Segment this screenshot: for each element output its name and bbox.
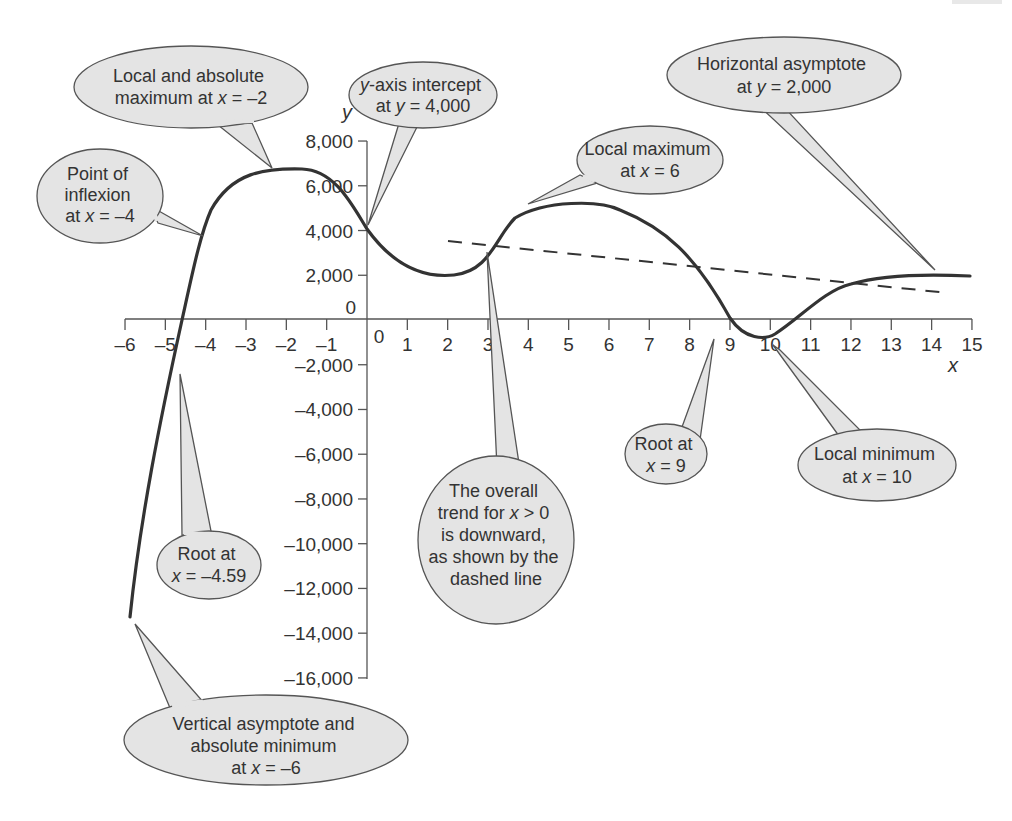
- callout-root-9: Root at x = 9: [625, 339, 714, 484]
- x-tick-label: –2: [276, 334, 297, 355]
- function-graph: 8,0006,0004,0002,0000–2,000–4,000–6,000–…: [0, 0, 1012, 821]
- callout-y-intercept: y-axis intercept at y = 4,000: [349, 62, 497, 225]
- y-tick-label: –8,000: [295, 489, 353, 510]
- callout-point-of-inflexion: Point of inflexion at x = –4: [37, 149, 203, 243]
- x-axis: –6–5–4–3–2–10123456789101112131415 x: [114, 319, 982, 376]
- y-tick-label: –14,000: [284, 623, 353, 644]
- y-tick-label: 8,000: [305, 131, 353, 152]
- x-tick-label: 12: [840, 334, 861, 355]
- x-tick-label: –4: [195, 334, 217, 355]
- x-tick-label: –3: [235, 334, 256, 355]
- x-tick-label: –5: [155, 334, 176, 355]
- callout-local-maximum: Local maximum at x = 6: [528, 126, 723, 204]
- x-tick-label: 8: [684, 334, 695, 355]
- y-tick-label: 2,000: [305, 265, 353, 286]
- x-tick-label: 6: [604, 334, 615, 355]
- y-tick-label: –16,000: [284, 668, 353, 689]
- callout-local-minimum: Local minimum at x = 10: [773, 345, 956, 501]
- x-tick-label: 5: [563, 334, 574, 355]
- x-tick-label: 13: [881, 334, 902, 355]
- x-tick-label: 14: [921, 334, 943, 355]
- x-tick-label: –6: [114, 334, 135, 355]
- y-axis: 8,0006,0004,0002,0000–2,000–4,000–6,000–…: [284, 101, 367, 689]
- x-tick-label: 2: [442, 334, 453, 355]
- x-tick-label: 15: [961, 334, 982, 355]
- x-tick-label: 4: [523, 334, 534, 355]
- x-tick-label: –1: [316, 334, 337, 355]
- x-tick-label: 0: [374, 326, 385, 347]
- x-axis-title: x: [947, 354, 959, 376]
- x-tick-label: 11: [801, 334, 821, 355]
- y-tick-label: 4,000: [305, 221, 353, 242]
- callout-vertical-asymptote: Vertical asymptote and absolute minimum …: [124, 624, 408, 785]
- y-tick-label: –12,000: [284, 578, 353, 599]
- y-tick-label: –2,000: [295, 355, 353, 376]
- x-tick-label: 7: [644, 334, 655, 355]
- y-tick-label: –6,000: [295, 444, 353, 465]
- y-tick-label: 0: [345, 297, 356, 318]
- callout-overall-trend: The overall trend for x > 0 is downward,…: [418, 252, 574, 624]
- y-tick-label: –10,000: [284, 534, 353, 555]
- x-tick-label: 1: [402, 334, 413, 355]
- callout-root-negative: Root at x = –4.59: [157, 374, 261, 599]
- svg-text:Point of inflexion: Point of inflexion at x = –4: [64, 164, 135, 226]
- y-tick-label: –4,000: [295, 399, 353, 420]
- x-tick-label: 9: [725, 334, 736, 355]
- svg-text:y-axis intercept at y =: y-axis intercept at y = 4,000: [358, 75, 486, 116]
